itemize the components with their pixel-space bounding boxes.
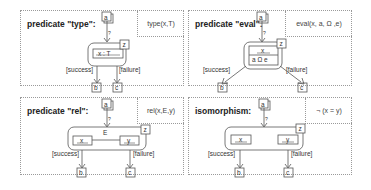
node-c: c bbox=[286, 169, 290, 176]
success-label: [success] bbox=[208, 150, 235, 158]
node-z: z bbox=[299, 125, 302, 132]
left-label: x bbox=[239, 136, 243, 143]
node-a: a bbox=[261, 101, 265, 108]
node-b: b bbox=[237, 169, 241, 176]
svg-text:?: ? bbox=[265, 116, 268, 122]
failure-label: [failure] bbox=[291, 150, 313, 158]
diagram-isomorphism: a ? x y z [success] [failure] b c bbox=[0, 0, 371, 190]
